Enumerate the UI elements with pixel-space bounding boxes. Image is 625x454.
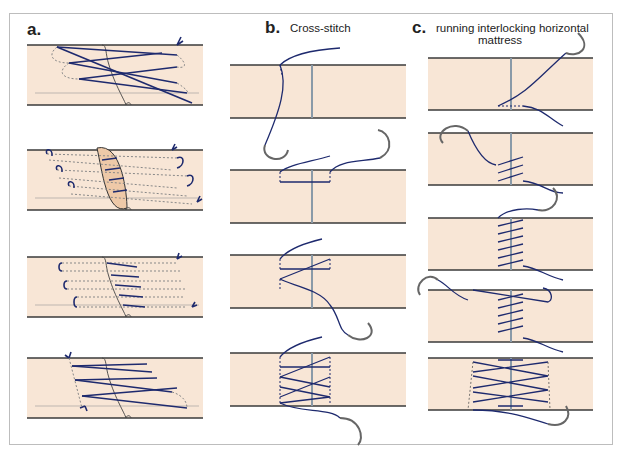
- panel-a-step-1: [27, 37, 203, 105]
- panel-c-step-3: [428, 188, 593, 280]
- panel-b-step-1: [230, 48, 406, 159]
- panel-c-step-4: [418, 277, 593, 352]
- suture-diagram: [0, 0, 625, 454]
- panel-b-step-4: [230, 337, 406, 445]
- panel-c-step-1: [428, 33, 593, 126]
- panel-c-step-2: [428, 126, 593, 193]
- panel-a-step-4: [27, 352, 203, 418]
- panel-b-step-3: [230, 239, 406, 339]
- panel-b-step-2: [230, 130, 406, 223]
- panel-a-step-3: [27, 253, 203, 317]
- panel-a-step-2: [27, 144, 203, 210]
- panel-c-step-5: [428, 358, 593, 425]
